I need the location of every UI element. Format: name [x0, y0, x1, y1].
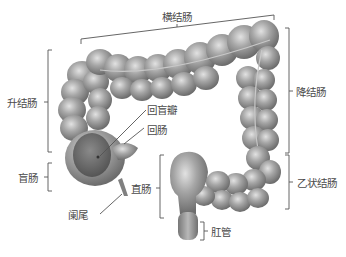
label-sigmoid-colon: 乙状结肠: [297, 177, 337, 189]
label-rectum: 直肠: [131, 183, 151, 195]
bracket-cecum: [48, 163, 52, 191]
anal-canal: [178, 212, 198, 240]
label-ileum: 回肠: [147, 124, 167, 136]
label-cecum: 盲肠: [18, 172, 38, 184]
label-ileocecal-valve: 回盲瓣: [147, 104, 177, 116]
label-ascending-colon: 升结肠: [7, 97, 37, 109]
bracket-sigmoid-colon: [285, 155, 289, 209]
bracket-ascending-colon: [48, 50, 52, 152]
label-transverse-colon: 横结肠: [162, 11, 192, 23]
cecum: [65, 130, 125, 186]
label-appendix: 阑尾: [68, 209, 88, 221]
bracket-anal-canal: [200, 222, 204, 240]
appendix: [118, 178, 128, 196]
descending-colon: [236, 46, 280, 151]
intestine-illustration: [0, 0, 346, 257]
leader-appendix: [100, 194, 122, 214]
large-intestine-diagram: 横结肠 升结肠 降结肠 回盲瓣 回肠 盲肠 直肠 乙状结肠 阑尾 肛管: [0, 0, 346, 257]
leader-ileum: [124, 128, 144, 144]
label-anal-canal: 肛管: [211, 226, 231, 238]
bracket-rectum: [160, 155, 164, 218]
bracket-descending-colon: [285, 28, 289, 153]
label-descending-colon: 降结肠: [296, 86, 326, 98]
